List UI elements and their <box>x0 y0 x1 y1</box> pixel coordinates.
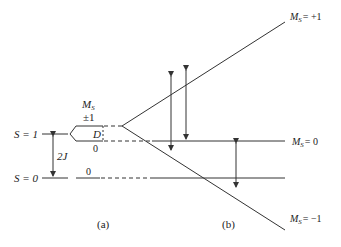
ms-zero-upper-label: 0 <box>93 143 98 154</box>
ms-zero-lower-label: 0 <box>86 166 91 177</box>
ms-zero-label: MS= 0 <box>291 136 318 149</box>
s0-label: S = 0 <box>14 172 38 184</box>
ms-plus1-branch <box>122 22 285 126</box>
caption-a: (a) <box>97 218 110 231</box>
energy-level-diagram: S = 1 S = 0 2J MS ±1 D 0 0 (a) MS= +1 MS… <box>0 0 341 247</box>
zfs-d-label: D <box>92 128 101 140</box>
ms-plus1-label: MS= +1 <box>289 11 322 24</box>
ms-header-label: MS <box>81 98 95 112</box>
2j-label: 2J <box>57 150 69 162</box>
ms-minus1-label: MS= −1 <box>289 213 322 226</box>
ms-pm1-label: ±1 <box>83 111 95 123</box>
caption-b: (b) <box>222 218 235 231</box>
s1-label: S = 1 <box>14 128 38 140</box>
